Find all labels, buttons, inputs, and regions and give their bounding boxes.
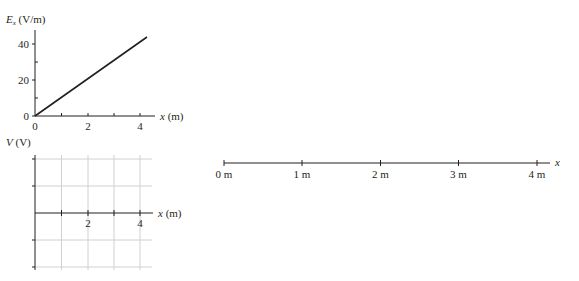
figure-canvas: Ex (V/m) 0 20 40 0 2 4 x (m) V (V) bbox=[0, 0, 579, 281]
ex-data-line bbox=[35, 37, 147, 116]
number-line-label-2m: 2 m bbox=[372, 168, 389, 180]
number-line-label-1m: 1 m bbox=[294, 168, 311, 180]
number-line-x-label: x bbox=[554, 156, 560, 168]
v-x-tick-2: 2 bbox=[85, 217, 91, 229]
v-x-axis-label: x (m) bbox=[157, 207, 182, 220]
v-axis-label: V (V) bbox=[6, 136, 31, 149]
number-line-label-3m: 3 m bbox=[450, 168, 467, 180]
ex-axis-label: Ex (V/m) bbox=[5, 13, 46, 27]
ex-x-tick-2: 2 bbox=[85, 120, 91, 132]
ex-y-tick-40: 40 bbox=[18, 38, 30, 50]
ex-y-tick-0: 0 bbox=[24, 110, 30, 122]
number-line-label-0m: 0 m bbox=[216, 168, 233, 180]
electric-field-graph: Ex (V/m) 0 20 40 0 2 4 x (m) bbox=[5, 13, 184, 132]
ex-x-tick-0: 0 bbox=[32, 120, 38, 132]
ex-y-tick-20: 20 bbox=[18, 74, 30, 86]
number-line-label-4m: 4 m bbox=[529, 168, 546, 180]
ex-x-axis-label: x (m) bbox=[159, 110, 184, 123]
v-x-tick-4: 4 bbox=[137, 217, 143, 229]
ex-x-tick-4: 4 bbox=[137, 120, 143, 132]
position-number-line: 0 m 1 m 2 m 3 m 4 m x bbox=[216, 156, 560, 180]
potential-graph: V (V) 2 4 x (m) bbox=[6, 136, 182, 270]
